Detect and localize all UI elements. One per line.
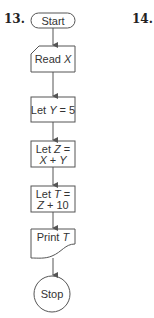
read-label: Read X	[35, 53, 72, 65]
print-label: Print T	[37, 231, 71, 243]
let-y-label: Let Y = 5	[31, 104, 75, 116]
start-label: Start	[41, 15, 64, 27]
stop-label: Stop	[41, 288, 64, 300]
let-t-label-line1: Let T =	[36, 188, 71, 200]
let-z-label-line2: X + Y	[38, 154, 67, 166]
let-z-label-line1: Let Z =	[36, 143, 71, 155]
flowchart: Start Read X Let Y = 5 Let Z = X + Y Let…	[0, 0, 154, 318]
let-t-label-line2: Z + 10	[36, 199, 69, 211]
